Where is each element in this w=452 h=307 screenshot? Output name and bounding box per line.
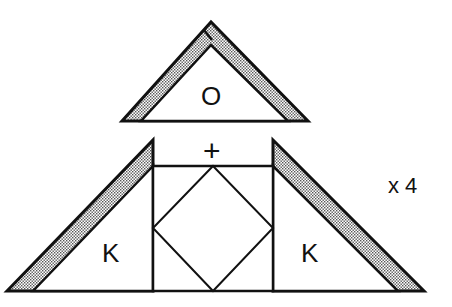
right-triangle-piece	[273, 140, 424, 291]
right-triangle-label: K	[301, 238, 319, 268]
quilt-diagram: O + K K x 4	[0, 0, 452, 307]
top-triangle-label: O	[201, 81, 221, 111]
multiplier-label: x 4	[388, 173, 417, 198]
center-block	[153, 166, 273, 291]
left-triangle-label: K	[102, 238, 120, 268]
left-triangle-piece	[7, 140, 153, 291]
join-plus-symbol: +	[203, 134, 221, 167]
